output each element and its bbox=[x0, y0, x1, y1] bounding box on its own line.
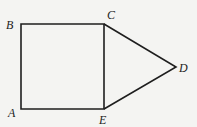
label-a: A bbox=[7, 106, 16, 120]
label-e: E bbox=[98, 113, 107, 127]
label-b: B bbox=[6, 18, 14, 32]
triangle-cde bbox=[104, 24, 176, 109]
diagram-svg: B C D A E bbox=[0, 0, 197, 127]
label-c: C bbox=[107, 8, 116, 22]
label-d: D bbox=[178, 61, 188, 75]
geometry-diagram: B C D A E bbox=[0, 0, 197, 127]
square-abce bbox=[21, 24, 104, 109]
